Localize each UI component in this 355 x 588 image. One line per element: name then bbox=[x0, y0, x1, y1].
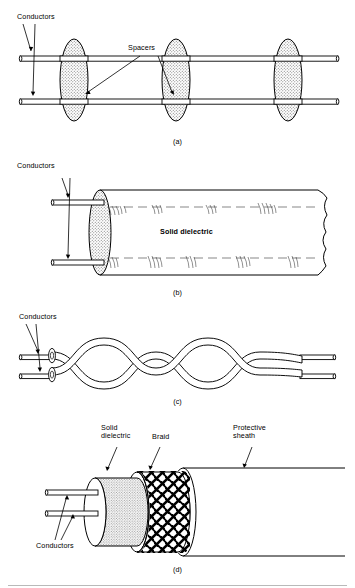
panel-b-twin-lead-line: Conductors Solid dielectric (b) bbox=[0, 160, 355, 310]
protective-sheath bbox=[170, 468, 345, 556]
panel-d-drawing bbox=[0, 415, 355, 588]
conductor-top bbox=[51, 200, 104, 205]
conductor-top-right bbox=[300, 355, 336, 360]
panel-a-spacers-label: Spacers bbox=[128, 44, 155, 52]
conductors-leader-lines bbox=[26, 324, 40, 368]
panel-d-braid-label: Braid bbox=[152, 433, 169, 441]
panel-c-caption: (c) bbox=[0, 398, 355, 406]
insulation-end-b bbox=[49, 367, 56, 381]
panel-c-twisted-pair-line: Conductors (c) bbox=[0, 310, 355, 415]
panel-d-solid-dielectric-label: Solid dielectric bbox=[101, 424, 130, 441]
panel-d-protective-sheath-label: Protective sheath bbox=[233, 424, 266, 441]
panel-b-solid-dielectric-label: Solid dielectric bbox=[160, 228, 213, 236]
arrowhead bbox=[65, 495, 69, 499]
spacer-3 bbox=[274, 39, 302, 121]
panel-c-conductors-label: Conductors bbox=[19, 313, 57, 321]
arrowhead bbox=[29, 47, 33, 51]
spacer-2 bbox=[162, 39, 190, 121]
arrowhead bbox=[105, 466, 109, 471]
arrowhead bbox=[148, 465, 152, 470]
conductors-leader-lines bbox=[62, 178, 70, 255]
arrowhead bbox=[31, 92, 35, 96]
solid-dielectric-leader bbox=[108, 447, 117, 468]
solid-dielectric-body bbox=[100, 190, 327, 275]
arrowhead bbox=[66, 255, 70, 259]
panel-d-conductors-label: Conductors bbox=[36, 542, 74, 550]
figure-caption-rule bbox=[8, 585, 347, 586]
arrowhead bbox=[38, 368, 42, 373]
panel-a-two-wire-open-line: Conductors Spacers (a) bbox=[0, 0, 355, 160]
panel-b-caption: (b) bbox=[0, 289, 355, 297]
conductors-leader-lines bbox=[55, 499, 72, 540]
panel-a-drawing bbox=[0, 0, 355, 160]
conductor-bottom bbox=[19, 374, 52, 379]
spacer-1 bbox=[60, 39, 88, 121]
conductor-bottom bbox=[51, 260, 104, 265]
insulation-end-a bbox=[49, 348, 56, 362]
braid-leader bbox=[151, 447, 160, 467]
panel-d-caption: (d) bbox=[0, 566, 355, 574]
conductor-top bbox=[19, 355, 52, 360]
panel-b-conductors-label: Conductors bbox=[17, 162, 55, 170]
panel-d-coaxial-cable: Solid dielectric Braid Protective sheath… bbox=[0, 415, 355, 588]
conductor-bottom bbox=[45, 511, 98, 516]
protective-sheath-leader bbox=[245, 447, 252, 465]
conductor-bottom-right bbox=[300, 374, 336, 379]
panel-a-conductors-label: Conductors bbox=[17, 13, 55, 21]
arrowhead bbox=[243, 463, 247, 468]
conductor-top bbox=[45, 490, 98, 495]
arrowhead bbox=[36, 350, 41, 354]
panel-a-caption: (a) bbox=[0, 138, 355, 146]
